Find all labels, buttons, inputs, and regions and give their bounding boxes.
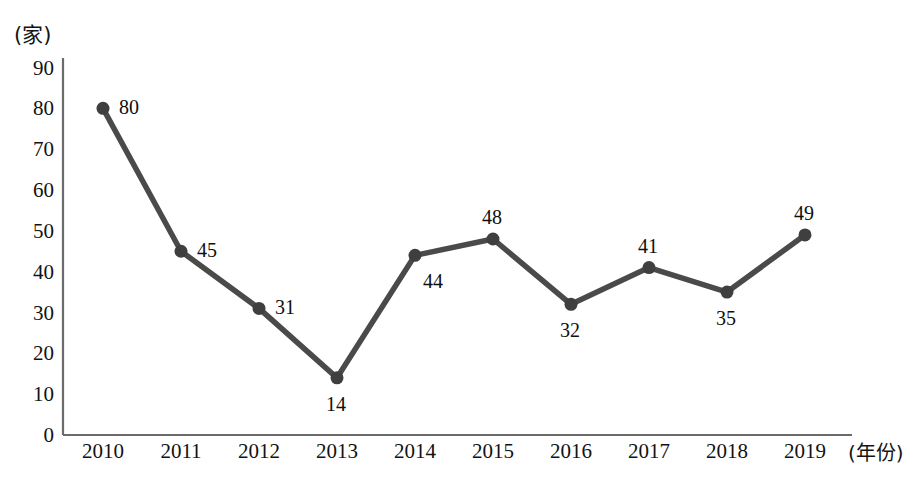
data-point-marker bbox=[799, 228, 812, 241]
data-point-label: 80 bbox=[119, 97, 139, 117]
data-point-label: 32 bbox=[560, 320, 580, 340]
line-chart: (家) 0102030405060708090 2010201120122013… bbox=[0, 0, 921, 501]
data-point-marker bbox=[487, 233, 500, 246]
data-point-marker bbox=[175, 245, 188, 258]
data-point-marker bbox=[643, 261, 656, 274]
data-point-label: 49 bbox=[794, 203, 814, 223]
data-point-marker bbox=[409, 249, 422, 262]
data-point-marker bbox=[253, 302, 266, 315]
data-point-label: 35 bbox=[716, 308, 736, 328]
data-point-label: 45 bbox=[197, 240, 217, 260]
x-axis-unit-label: (年份) bbox=[848, 437, 904, 466]
data-point-marker bbox=[721, 286, 734, 299]
plot-area bbox=[0, 0, 921, 501]
data-point-label: 41 bbox=[638, 236, 658, 256]
data-point-marker bbox=[565, 298, 578, 311]
data-point-label: 14 bbox=[326, 394, 346, 414]
data-point-label: 31 bbox=[275, 297, 295, 317]
data-point-label: 44 bbox=[423, 271, 443, 291]
data-point-marker bbox=[331, 371, 344, 384]
data-point-marker bbox=[97, 102, 110, 115]
data-point-label: 48 bbox=[482, 207, 502, 227]
